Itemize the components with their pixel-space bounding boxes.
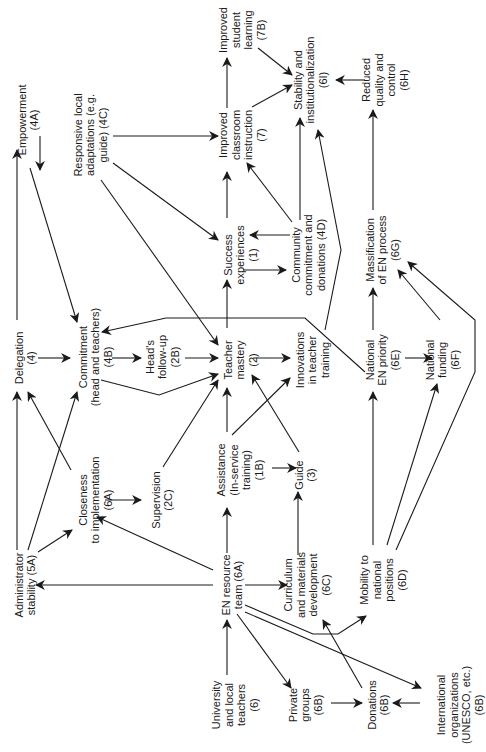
node-label-line: mastery: [234, 340, 246, 380]
node-label-line: International: [435, 675, 447, 736]
node-label: Commitment(head and teachers)(4B): [77, 308, 114, 406]
node-label-line: Stability and: [292, 50, 304, 110]
node-7B: Improvedstudentlearning(7B): [217, 7, 267, 53]
node-label-line: Responsive local: [72, 93, 84, 176]
node-label-line: and local: [223, 683, 235, 727]
node-label-line: in teacher: [306, 336, 318, 385]
node-label: Responsive localadaptations (e.g.guide) …: [72, 93, 109, 176]
node-label-line: Reduced: [360, 58, 372, 102]
node-7: Improvedclassroominstruction(7): [217, 110, 267, 160]
edge-7-to-6I: [252, 85, 292, 107]
node-6: Universityand localteachers(6): [210, 680, 260, 729]
node-label-line: and materials: [295, 551, 307, 618]
node-label-line: of EN process: [376, 215, 388, 285]
node-label: Internationalorganizations(UNESCO, etc.)…: [435, 666, 485, 744]
node-label: Donations(6B): [366, 680, 391, 730]
node-4A: Empowerment(4A): [16, 85, 41, 156]
edge-2C-to-2: [163, 380, 218, 467]
node-label-line: experiences: [234, 225, 246, 285]
node-label-line: instruction: [242, 110, 254, 160]
node-label-line: student: [230, 12, 242, 48]
edge-4A-to-4B: [30, 168, 77, 322]
node-label-line: Teacher: [222, 340, 234, 379]
node-label-line: guide) (4C): [97, 107, 109, 162]
node-label-line: (6B): [473, 695, 485, 716]
node-label-line: development: [307, 554, 319, 617]
node-label-line: training): [240, 450, 252, 490]
node-label-line: Empowerment: [16, 85, 28, 156]
node-label-line: (1): [247, 248, 259, 261]
node-label: Teachermastery(2): [222, 340, 259, 380]
edge-7B-to-6I: [258, 48, 292, 75]
node-1: Successexperiences(1): [222, 225, 259, 285]
node-label-line: University: [210, 680, 222, 729]
node-label-line: Innovations: [294, 331, 306, 388]
node-6B-private: Privategroups(6B): [287, 688, 324, 722]
node-label-line: team (6A): [232, 561, 244, 609]
node-label-line: (In-service: [228, 444, 240, 495]
node-label-line: EN priority: [376, 334, 388, 386]
edge-4D-to-7: [247, 163, 292, 222]
node-label-line: Guide: [293, 460, 305, 489]
node-label-line: to implementation: [89, 457, 101, 544]
node-label-line: Success: [222, 234, 234, 276]
node-label: Reducedquality andcontrol(6H): [360, 53, 410, 106]
node-label-line: (6B): [378, 695, 390, 716]
node-6B-donations: Donations(6B): [366, 680, 391, 730]
edge-6A-to-6B-intl: [245, 612, 421, 688]
node-label-line: (7): [255, 128, 267, 141]
node-label-line: Improved: [217, 7, 229, 53]
node-label-line: (3): [305, 468, 317, 481]
node-label: Stability andinstitutionalization(6I): [292, 37, 329, 124]
node-label-line: adaptations (e.g.: [84, 94, 96, 176]
node-label-line: (6A): [102, 490, 114, 511]
node-label: Successexperiences(1): [222, 225, 259, 285]
node-label: Supervision(2C): [150, 471, 175, 528]
node-label-line: learning: [242, 10, 254, 49]
node-label-line: stability (5A): [25, 555, 37, 616]
node-label-line: groups: [299, 688, 311, 722]
node-label-line: (6D): [396, 569, 408, 590]
node-label-line: control: [385, 63, 397, 96]
node-label-line: (2C): [162, 489, 174, 510]
node-label: Mobility tonationalpositions(6D): [358, 555, 408, 605]
node-4D: Communitycommitment anddonations (4D): [290, 214, 327, 295]
edge-3-to-2: [252, 375, 299, 452]
node-4: Delegation(4): [13, 332, 38, 385]
node-label-line: (6H): [398, 69, 410, 90]
node-label: Universityand localteachers(6): [210, 680, 260, 729]
edge-4C-to-2: [101, 180, 218, 345]
node-label: Nationalfunding(6F): [424, 340, 461, 380]
node-label: EN resourceteam (6A): [220, 554, 245, 615]
node-label-line: Donations: [366, 680, 378, 730]
node-label-line: (6G): [389, 239, 401, 261]
causal-flow-diagram: Empowerment(4A)Responsive localadaptatio…: [0, 0, 486, 752]
edge-6D-to-6G: [396, 262, 475, 550]
edge-5A-to-4B: [28, 392, 77, 550]
node-label-line: training: [319, 342, 331, 378]
node-6H: Reducedquality andcontrol(6H): [360, 53, 410, 106]
node-label-line: Delegation: [13, 332, 25, 385]
node-label: NationalEN priority(6E): [364, 334, 401, 386]
node-label-line: (1B): [253, 460, 265, 481]
node-IT: Innovationsin teachertraining: [294, 331, 331, 388]
node-label-line: (UNESCO, etc.): [460, 666, 472, 744]
node-6D: Mobility tonationalpositions(6D): [358, 555, 408, 605]
node-2B: Head'sfollow-up(2B): [144, 335, 181, 379]
node-label: Administratorstability (5A): [13, 552, 38, 617]
node-label-line: (2): [247, 353, 259, 366]
node-label-line: Mobility to: [358, 555, 370, 605]
nodes-layer: Empowerment(4A)Responsive localadaptatio…: [13, 7, 485, 744]
node-label-line: (6E): [389, 350, 401, 371]
node-label-line: (6F): [449, 350, 461, 370]
node-6G: Massificationof EN process(6G): [364, 215, 401, 285]
node-1B: Assistance(In-servicetraining)(1B): [215, 443, 265, 496]
edge-4C-to-1: [113, 163, 218, 240]
node-label: Guide(3): [293, 460, 318, 489]
node-6C: Curriculumand materialsdevelopment(6C): [282, 551, 332, 618]
node-label: Delegation(4): [13, 332, 38, 385]
node-label-line: Massification: [364, 218, 376, 282]
node-label: Empowerment(4A): [16, 85, 41, 156]
node-6F: Nationalfunding(6F): [424, 340, 461, 380]
node-label-line: (6): [248, 698, 260, 711]
